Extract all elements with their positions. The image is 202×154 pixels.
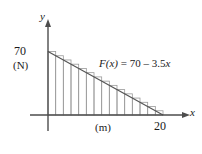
y-axis-unit-label: (N) — [13, 60, 28, 71]
riemann-rectangle — [79, 68, 87, 115]
x-endpoint-label: 20 — [154, 120, 166, 132]
equation-variable: x — [165, 57, 170, 69]
equation-argument: (x) — [106, 57, 118, 69]
riemann-rectangle — [48, 52, 56, 116]
riemann-rectangle — [94, 77, 102, 115]
y-axis-arrowhead — [45, 19, 51, 27]
riemann-rectangle — [56, 56, 64, 115]
riemann-rectangle — [109, 85, 117, 115]
riemann-rectangle — [71, 64, 79, 115]
x-axis-unit-label: (m) — [95, 122, 111, 133]
equation-rhs: = 70 – 3.5 — [118, 57, 165, 69]
function-equation-label: F(x) = 70 – 3.5x — [99, 58, 170, 69]
y-axis-name-label: y — [40, 11, 45, 22]
y-intercept-label: 70 — [14, 45, 26, 57]
x-axis-arrowhead — [182, 112, 190, 118]
x-axis-name-label: x — [190, 107, 195, 118]
riemann-rectangle — [63, 60, 71, 115]
riemann-rectangle — [86, 73, 94, 115]
equation-function-name: F — [99, 57, 106, 69]
force-distance-graph-figure: 70 (N) F(x) = 70 – 3.5x (m) 20 x y — [0, 0, 202, 154]
riemann-rectangle — [102, 81, 110, 115]
